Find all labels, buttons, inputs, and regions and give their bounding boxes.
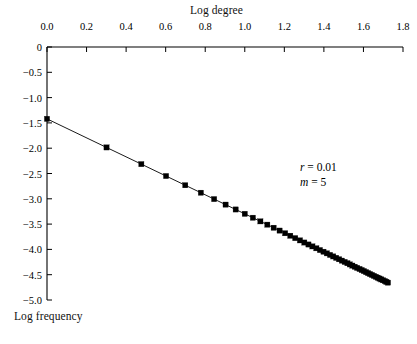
y-axis-title: Log frequency (14, 310, 83, 322)
y-tick-label: −3.5 (0, 219, 42, 230)
y-tick-label: −4.0 (0, 244, 42, 255)
x-tick-label: 1.8 (396, 21, 409, 32)
y-axis-ticks (47, 47, 52, 300)
annotation-m-value: 5 (321, 176, 327, 188)
annotation-m-operator: = (308, 176, 320, 188)
x-tick-label: 1.6 (357, 21, 370, 32)
x-tick-label: 1.0 (238, 21, 251, 32)
x-axis-title: Log degree (0, 4, 417, 16)
x-tick-label: 0.8 (199, 21, 212, 32)
y-tick-label: −3.0 (0, 193, 42, 204)
annotation-r-value: 0.01 (317, 161, 337, 173)
x-tick-label: 0.2 (80, 21, 93, 32)
y-tick-label: −1.5 (0, 117, 42, 128)
annotation-r: r = 0.01 (300, 161, 337, 173)
y-tick-label: 0 (0, 42, 42, 53)
annotation-r-operator: = (304, 161, 316, 173)
x-axis-ticks (47, 47, 403, 52)
y-tick-label: −4.5 (0, 269, 42, 280)
annotation-m: m = 5 (300, 176, 326, 188)
x-tick-label: 0.6 (159, 21, 172, 32)
y-tick-label: −2.5 (0, 168, 42, 179)
x-tick-label: 0.0 (40, 21, 53, 32)
x-tick-label: 1.4 (317, 21, 330, 32)
x-tick-label: 1.2 (278, 21, 291, 32)
y-tick-label: −2.0 (0, 143, 42, 154)
x-tick-label: 0.4 (120, 21, 133, 32)
y-tick-label: −5.0 (0, 295, 42, 306)
y-tick-label: −0.5 (0, 67, 42, 78)
y-tick-label: −1.0 (0, 92, 42, 103)
chart-figure: Log degree Log frequency 0.00.20.40.60.8… (0, 0, 417, 344)
plot-area (0, 0, 417, 344)
